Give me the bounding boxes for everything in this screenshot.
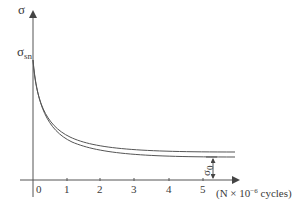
sigma0-subscript: 0 [205,166,215,171]
x-tick-1: 1 [64,183,70,195]
x-tick-4: 4 [166,183,172,195]
x-label-exponent: −6 [250,187,257,195]
x-axis-label: (N × 10−6 cycles) [216,187,292,199]
x-tick-0: 0 [36,183,42,195]
chart-canvas [0,0,304,208]
x-label-pre: (N × 10 [216,187,250,199]
sigma-sn-label: σsn [17,44,32,60]
sigma-sn-symbol: σ [17,44,24,59]
x-tick-5: 5 [200,183,206,195]
upper-curve [33,60,235,152]
x-tick-2: 2 [97,183,103,195]
lower-curve [33,60,235,157]
sigma0-label: σ0 [200,166,212,176]
sigma0-symbol: σ [200,170,212,176]
sigma-sn-subscript: sn [24,51,32,61]
x-tick-3: 3 [131,183,137,195]
x-label-post: cycles) [258,187,292,199]
y-axis-label: σ [18,2,25,18]
